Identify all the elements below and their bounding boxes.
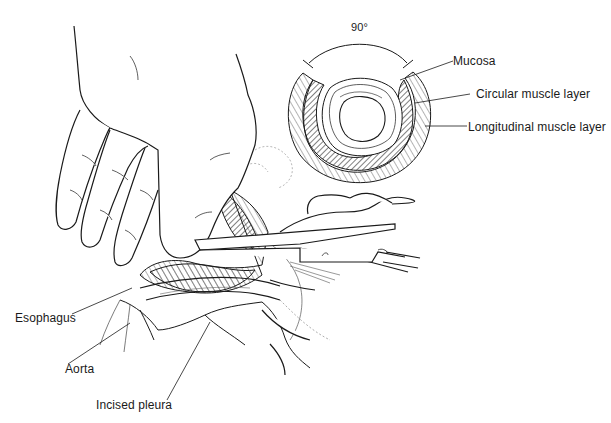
illustration-drawing <box>0 0 611 423</box>
scissor-hand <box>262 193 415 375</box>
retracting-hand <box>56 26 256 265</box>
esophagus-label: Esophagus <box>15 311 76 325</box>
field-leader-lines <box>68 288 210 400</box>
esophagus-cross-section <box>288 44 470 182</box>
circular-muscle-label: Circular muscle layer <box>476 87 590 101</box>
incised-pleura-label: Incised pleura <box>96 398 172 412</box>
mucosa-label: Mucosa <box>453 54 496 68</box>
illustration-canvas: 90° Mucosa Circular muscle layer Longitu… <box>0 0 611 423</box>
angle-label: 90° <box>351 20 368 34</box>
longitudinal-muscle-label: Longitudinal muscle layer <box>468 120 606 134</box>
aorta-label: Aorta <box>65 362 94 376</box>
